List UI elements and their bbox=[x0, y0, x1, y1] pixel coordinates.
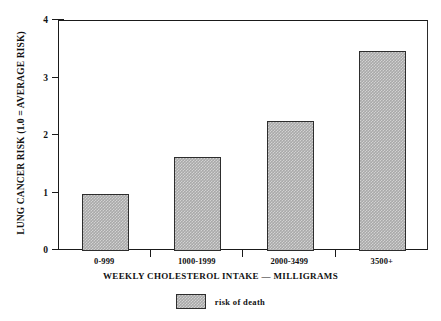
bar-1000-1999 bbox=[174, 157, 221, 251]
plot-area bbox=[58, 20, 428, 250]
chart-legend: risk of death bbox=[0, 294, 441, 309]
x-category-label: 0-999 bbox=[58, 256, 151, 267]
x-axis-title: WEEKLY CHOLESTEROL INTAKE — MILLIGRAMS bbox=[0, 271, 441, 281]
y-tick-label: 2 bbox=[34, 130, 48, 140]
x-category-label: 3500+ bbox=[336, 256, 429, 267]
legend-swatch-risk-of-death bbox=[176, 294, 206, 309]
x-category-label: 2000-3499 bbox=[243, 256, 336, 267]
legend-label-risk-of-death: risk of death bbox=[215, 297, 265, 307]
y-tick-label: 0 bbox=[34, 245, 48, 255]
y-axis-title: LUNG CANCER RISK (1.0 = AVERAGE RISK) bbox=[14, 8, 28, 258]
bar-3500+ bbox=[359, 51, 406, 251]
y-tick-label: 4 bbox=[34, 15, 48, 25]
y-tick-label: 3 bbox=[34, 73, 48, 83]
y-tick-label: 1 bbox=[34, 188, 48, 198]
bar-2000-3499 bbox=[267, 121, 314, 251]
bar-chart-figure: LUNG CANCER RISK (1.0 = AVERAGE RISK) 01… bbox=[0, 0, 441, 321]
x-category-label: 1000-1999 bbox=[151, 256, 244, 267]
bar-0-999 bbox=[82, 194, 129, 252]
